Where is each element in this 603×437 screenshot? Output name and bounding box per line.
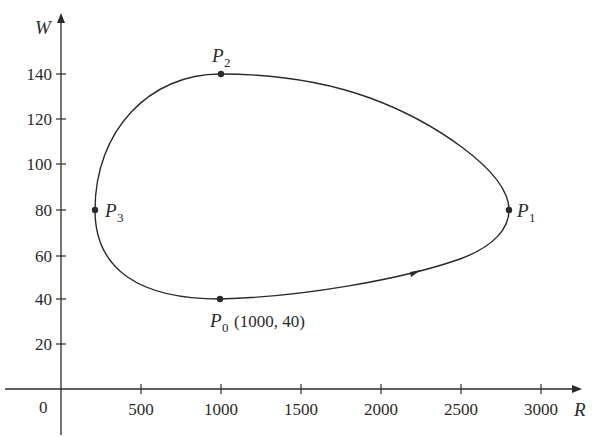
origin-label: 0 — [39, 398, 48, 417]
y-tick-label: 120 — [27, 110, 53, 129]
label-p3: P 3 — [104, 200, 124, 225]
phase-plot: W R 0 500 1000 1500 2000 2500 3000 140 1… — [0, 0, 603, 437]
svg-text:P: P — [104, 200, 117, 221]
x-tick-label: 500 — [128, 400, 154, 419]
y-tick-label: 80 — [35, 201, 52, 220]
x-axis-label: R — [573, 399, 586, 420]
point-p3 — [92, 207, 98, 213]
label-p0: P 0 (1000, 40) — [209, 310, 305, 335]
svg-text:2: 2 — [224, 55, 231, 70]
svg-text:(1000, 40): (1000, 40) — [234, 312, 305, 331]
x-tick-labels: 500 1000 1500 2000 2500 3000 — [128, 400, 558, 419]
y-tick-labels: 140 120 100 80 60 40 20 — [27, 65, 53, 354]
point-p1 — [506, 207, 512, 213]
svg-text:0: 0 — [222, 320, 229, 335]
svg-text:1: 1 — [529, 210, 536, 225]
x-tick-label: 1000 — [204, 400, 238, 419]
trajectory-curve — [95, 74, 509, 299]
y-tick-label: 20 — [35, 335, 52, 354]
point-p0 — [217, 296, 223, 302]
point-p2 — [218, 71, 224, 77]
y-tick-label: 40 — [35, 290, 52, 309]
x-tick-label: 2500 — [444, 400, 478, 419]
label-p1: P 1 — [516, 200, 536, 225]
direction-arrow-icon — [410, 270, 421, 277]
x-tick-label: 1500 — [284, 400, 318, 419]
svg-text:P: P — [516, 200, 529, 221]
svg-text:P: P — [211, 45, 224, 66]
y-tick-label: 100 — [27, 155, 53, 174]
y-tick-label: 60 — [35, 247, 52, 266]
x-tick-label: 2000 — [364, 400, 398, 419]
y-tick-label: 140 — [27, 65, 53, 84]
svg-text:P: P — [209, 310, 222, 331]
label-p2: P 2 — [211, 45, 231, 70]
svg-text:3: 3 — [117, 210, 124, 225]
y-axis-label: W — [35, 17, 53, 38]
x-tick-label: 3000 — [524, 400, 558, 419]
